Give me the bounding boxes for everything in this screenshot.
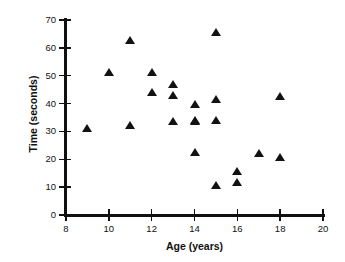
- x-axis-tick-label: 20: [308, 224, 338, 234]
- data-point-marker: [254, 149, 264, 157]
- plot-area: [66, 20, 323, 215]
- data-point-marker: [190, 148, 200, 156]
- x-axis-label: Age (years): [66, 240, 323, 252]
- data-point-marker: [104, 68, 114, 76]
- x-axis-tick-label: 8: [51, 224, 81, 234]
- data-point-marker: [190, 117, 200, 125]
- data-point-marker: [211, 28, 221, 36]
- y-axis-tick-label: 70: [16, 15, 56, 25]
- data-point-marker: [232, 167, 242, 175]
- data-point-marker: [168, 80, 178, 88]
- data-point-marker: [147, 68, 157, 76]
- data-point-marker: [82, 124, 92, 132]
- data-point-marker: [275, 153, 285, 161]
- data-point-marker: [168, 91, 178, 99]
- data-point-marker: [275, 92, 285, 100]
- x-axis-tick-label: 16: [222, 224, 252, 234]
- x-axis-tick-label: 14: [180, 224, 210, 234]
- x-axis-tick-label: 10: [94, 224, 124, 234]
- x-axis-tick-label: 12: [137, 224, 167, 234]
- data-point-marker: [232, 178, 242, 186]
- data-point-marker: [125, 36, 135, 44]
- data-point-marker: [168, 117, 178, 125]
- data-point-marker: [211, 116, 221, 124]
- x-axis-tick-label: 18: [265, 224, 295, 234]
- y-axis-label: Time (seconds): [27, 34, 39, 194]
- data-point-marker: [190, 100, 200, 108]
- data-point-marker: [211, 181, 221, 189]
- y-axis-tick-label: 0: [16, 210, 56, 220]
- data-point-marker: [211, 95, 221, 103]
- scatter-chart: 010203040506070 8101214161820 Time (seco…: [0, 0, 345, 262]
- data-point-marker: [147, 88, 157, 96]
- data-point-marker: [125, 121, 135, 129]
